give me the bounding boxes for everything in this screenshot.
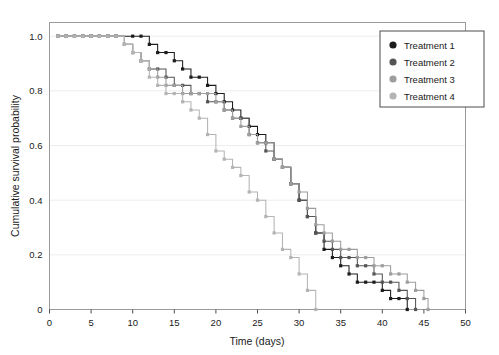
curve-marker — [356, 264, 359, 267]
curve-marker — [156, 84, 159, 87]
curve-marker — [123, 43, 126, 46]
curve-marker — [273, 231, 276, 234]
curve-marker — [256, 199, 259, 202]
curve-marker — [331, 248, 334, 251]
curve-marker — [397, 289, 400, 292]
curve-marker — [426, 308, 429, 311]
legend: Treatment 1Treatment 2Treatment 3Treatme… — [380, 31, 484, 107]
curve-marker — [372, 272, 375, 275]
curve-marker — [206, 133, 209, 136]
curve-marker — [173, 59, 176, 62]
curve-marker — [364, 264, 367, 267]
curve-marker — [322, 248, 325, 251]
y-tick-label: 0.6 — [29, 140, 42, 151]
curve-marker — [389, 272, 392, 275]
legend-marker-icon — [389, 75, 396, 82]
legend-item-label: Treatment 1 — [404, 40, 455, 51]
curve-marker — [189, 108, 192, 111]
legend-item-label: Treatment 3 — [404, 74, 455, 85]
curve-marker — [322, 231, 325, 234]
curve-marker — [339, 264, 342, 267]
curve-marker — [414, 289, 417, 292]
curve-marker — [148, 43, 151, 46]
curve-marker — [298, 199, 301, 202]
curve-marker — [331, 256, 334, 259]
x-tick-label: 5 — [88, 317, 93, 328]
curve-marker — [356, 281, 359, 284]
y-tick-label: 0.8 — [29, 85, 42, 96]
curve-marker — [189, 76, 192, 79]
curve-marker — [331, 240, 334, 243]
curve-marker — [298, 272, 301, 275]
curve-marker — [397, 297, 400, 300]
curve-marker — [347, 272, 350, 275]
curve-marker — [322, 240, 325, 243]
y-tick-label: 0.2 — [29, 249, 42, 260]
y-tick-label: 0.4 — [29, 195, 42, 206]
curve-marker — [164, 92, 167, 95]
x-tick-label: 30 — [294, 317, 305, 328]
curve-marker — [198, 117, 201, 120]
curve-marker — [364, 256, 367, 259]
legend-item-label: Treatment 4 — [404, 91, 455, 102]
curve-marker — [256, 141, 259, 144]
curve-marker — [298, 190, 301, 193]
x-tick-label: 25 — [252, 317, 263, 328]
curve-marker — [356, 256, 359, 259]
curve-marker — [114, 35, 117, 38]
curve-marker — [214, 149, 217, 152]
curve-marker — [306, 207, 309, 210]
curve-marker — [364, 281, 367, 284]
curve-marker — [223, 108, 226, 111]
curve-marker — [231, 117, 234, 120]
curve-marker — [239, 125, 242, 128]
curve-marker — [181, 100, 184, 103]
curve-marker — [389, 297, 392, 300]
curve-marker — [98, 35, 101, 38]
curve-marker — [231, 166, 234, 169]
curve-marker — [381, 289, 384, 292]
legend-marker-icon — [389, 58, 396, 65]
curve-marker — [406, 297, 409, 300]
x-tick-label: 20 — [211, 317, 222, 328]
curve-marker — [314, 231, 317, 234]
curve-marker — [339, 256, 342, 259]
x-tick-label: 40 — [377, 317, 388, 328]
y-tick-label: 1.0 — [29, 31, 42, 42]
curve-marker — [90, 35, 93, 38]
curve-marker — [406, 308, 409, 311]
curve-marker — [314, 308, 317, 311]
curve-marker — [56, 35, 59, 38]
curve-marker — [206, 92, 209, 95]
curve-marker — [131, 51, 134, 54]
x-tick-label: 10 — [127, 317, 138, 328]
curve-marker — [206, 84, 209, 87]
x-axis-label: Time (days) — [229, 335, 284, 347]
curve-marker — [381, 264, 384, 267]
curve-marker — [372, 281, 375, 284]
curve-marker — [139, 35, 142, 38]
curve-marker — [139, 59, 142, 62]
curve-marker — [273, 158, 276, 161]
curve-marker — [239, 174, 242, 177]
curve-marker — [281, 248, 284, 251]
curve-marker — [214, 100, 217, 103]
curve-marker — [65, 35, 68, 38]
curve-marker — [397, 272, 400, 275]
x-tick-label: 0 — [47, 317, 52, 328]
curve-marker — [73, 35, 76, 38]
curve-marker — [314, 223, 317, 226]
legend-marker-icon — [389, 41, 396, 48]
curve-marker — [173, 92, 176, 95]
survival-curve-figure: 05101520253035404550 00.20.40.60.81.0 Tr… — [0, 0, 499, 355]
curve-marker — [264, 149, 267, 152]
curve-marker — [248, 133, 251, 136]
y-tick-label: 0 — [37, 304, 42, 315]
x-tick-label: 15 — [169, 317, 180, 328]
curve-marker — [248, 190, 251, 193]
curve-marker — [198, 76, 201, 79]
legend-item-label: Treatment 2 — [404, 57, 455, 68]
curve-marker — [264, 215, 267, 218]
curve-marker — [306, 289, 309, 292]
curve-marker — [406, 281, 409, 284]
